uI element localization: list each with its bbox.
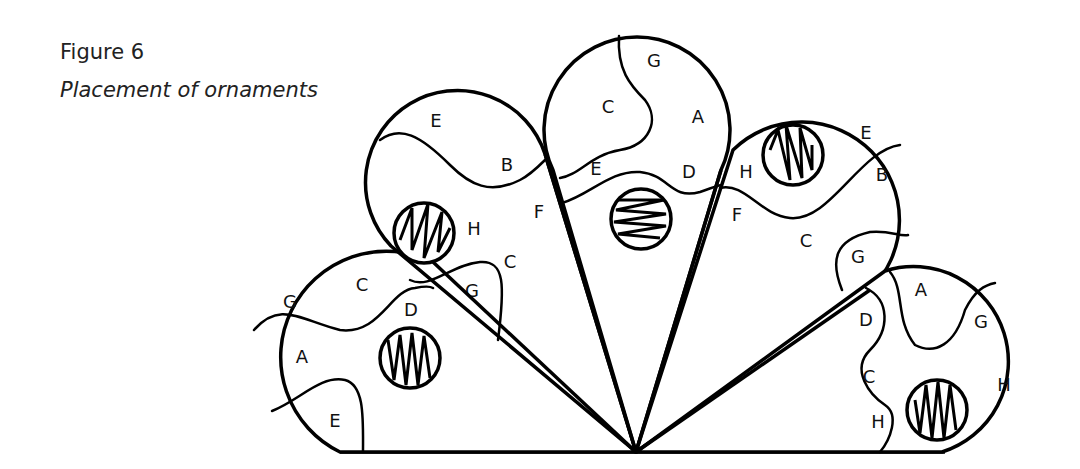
label: D: [859, 309, 873, 330]
label: C: [356, 274, 369, 295]
label: C: [602, 96, 615, 117]
label: A: [296, 346, 309, 367]
label: B: [501, 154, 513, 175]
label: A: [915, 279, 928, 300]
label: C: [800, 230, 813, 251]
label: D: [682, 161, 696, 182]
label: G: [974, 311, 988, 332]
ornament-fan-diagram: G C D A E E B F H C G G C A E D: [0, 0, 1080, 469]
label: E: [430, 110, 441, 131]
ornament-upper-right: [763, 125, 823, 185]
label: C: [863, 366, 876, 387]
label: H: [739, 161, 753, 182]
label: F: [534, 201, 544, 222]
label: H: [467, 218, 481, 239]
label: E: [590, 158, 601, 179]
label: E: [329, 410, 340, 431]
label: A: [692, 106, 705, 127]
label: G: [647, 50, 661, 71]
label: G: [851, 246, 865, 267]
label: E: [860, 122, 871, 143]
label: D: [404, 299, 418, 320]
label: F: [732, 204, 742, 225]
label: H: [871, 411, 885, 432]
label: G: [283, 291, 297, 312]
label: C: [504, 251, 517, 272]
label: B: [876, 164, 888, 185]
label: H: [997, 374, 1011, 395]
